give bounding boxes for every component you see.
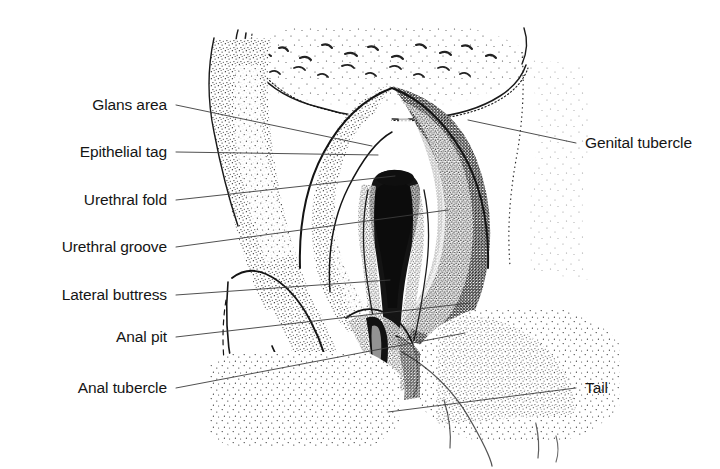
- tail: [420, 310, 620, 440]
- label-genital-tubercle: Genital tubercle: [585, 135, 692, 151]
- anatomical-illustration: [0, 0, 720, 469]
- label-anal-tubercle: Anal tubercle: [78, 380, 167, 396]
- right-upper-shading: [528, 60, 589, 280]
- figure-root: Stage 18: [0, 0, 720, 469]
- label-epithelial-tag: Epithelial tag: [80, 144, 167, 160]
- label-anal-pit: Anal pit: [116, 329, 167, 345]
- label-urethral-fold: Urethral fold: [84, 192, 167, 208]
- label-tail: Tail: [585, 380, 608, 396]
- label-glans-area: Glans area: [92, 97, 167, 113]
- label-urethral-groove: Urethral groove: [62, 239, 167, 255]
- label-lateral-buttress: Lateral buttress: [62, 287, 167, 303]
- perineum-shading: [210, 352, 400, 448]
